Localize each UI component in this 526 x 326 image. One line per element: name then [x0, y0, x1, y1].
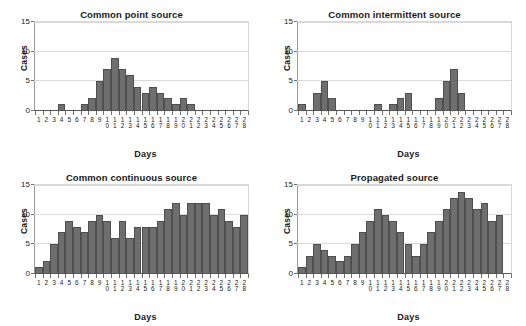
x-tick-label: 9 [360, 116, 365, 122]
y-tick-mark [31, 184, 34, 185]
x-tick-mark [366, 111, 367, 115]
x-tick-label: 15 [406, 279, 411, 290]
bar [81, 104, 89, 110]
x-tick-mark [50, 111, 51, 115]
plot-area: 051015 [34, 22, 249, 111]
bar [397, 98, 405, 110]
y-tick-mark [31, 214, 34, 215]
x-tick-mark [248, 274, 249, 278]
x-tick-mark [58, 274, 59, 278]
x-tick-label: 26 [226, 279, 231, 290]
x-tick-label: 20 [181, 279, 186, 290]
x-tick-label: 13 [391, 279, 396, 290]
bar [164, 98, 172, 110]
x-tick-label: 20 [181, 116, 186, 127]
chart-title: Common point source [0, 9, 263, 20]
bar [233, 227, 241, 273]
bar [119, 221, 127, 273]
x-tick-label: 2 [44, 116, 49, 122]
chart-title: Common intermittent source [263, 9, 526, 20]
y-tick-label: 0 [26, 106, 30, 115]
bar [126, 75, 134, 110]
bar [443, 209, 451, 273]
x-tick-mark [96, 111, 97, 115]
x-tick-labels: 1234567891011121314151617181920212223242… [34, 116, 249, 140]
x-tick-label: 14 [135, 279, 140, 290]
bar [374, 209, 382, 273]
y-tick-label: 0 [289, 269, 293, 278]
x-tick-mark [313, 111, 314, 115]
chart-panel-common_point_source: Common point sourceCases0510151234567891… [0, 0, 263, 163]
x-tick-label: 28 [242, 116, 247, 127]
bar [496, 215, 504, 273]
x-tick-label: 6 [74, 116, 79, 122]
bar [450, 69, 458, 110]
x-tick-label: 5 [330, 116, 335, 122]
x-tick-mark [344, 274, 345, 278]
bar [321, 250, 329, 273]
x-tick-label: 3 [315, 116, 320, 122]
x-tick-label: 23 [204, 116, 209, 127]
x-tick-label: 26 [226, 116, 231, 127]
x-tick-mark [35, 111, 36, 115]
x-tick-label: 18 [429, 116, 434, 127]
bar [443, 81, 451, 110]
x-tick-mark [58, 111, 59, 115]
bar-series [298, 186, 511, 273]
x-tick-label: 1 [299, 116, 304, 122]
x-tick-label: 25 [482, 116, 487, 127]
x-tick-mark [458, 111, 459, 115]
x-tick-mark [450, 111, 451, 115]
x-tick-mark [73, 111, 74, 115]
bar [389, 221, 397, 273]
x-tick-mark [126, 111, 127, 115]
x-tick-label: 24 [474, 116, 479, 127]
bar [473, 209, 481, 273]
bar [81, 232, 89, 273]
x-tick-mark [298, 274, 299, 278]
x-tick-mark [142, 274, 143, 278]
bar [328, 256, 336, 273]
x-tick-label: 4 [59, 116, 64, 122]
x-tick-mark [443, 274, 444, 278]
x-tick-mark [473, 274, 474, 278]
x-tick-mark [511, 111, 512, 115]
bar [218, 209, 226, 273]
y-tick-label: 0 [289, 106, 293, 115]
bar [43, 261, 51, 273]
x-tick-label: 24 [211, 279, 216, 290]
x-tick-mark [88, 274, 89, 278]
y-tick-label: 15 [21, 17, 30, 26]
bar [328, 98, 336, 110]
bar-series [35, 23, 248, 110]
bar [313, 244, 321, 273]
bar [103, 221, 111, 273]
x-tick-mark [119, 274, 120, 278]
x-tick-mark [321, 111, 322, 115]
gridline [34, 184, 249, 185]
x-tick-label: 3 [52, 279, 57, 285]
x-tick-mark [65, 111, 66, 115]
bar [465, 198, 473, 273]
bar [427, 232, 435, 273]
x-tick-mark [96, 274, 97, 278]
x-tick-mark [336, 274, 337, 278]
x-tick-label: 19 [436, 116, 441, 127]
bar [96, 81, 104, 110]
x-tick-mark [81, 111, 82, 115]
x-tick-labels: 1234567891011121314151617181920212223242… [34, 279, 249, 303]
x-tick-label: 7 [82, 279, 87, 285]
bar [134, 227, 142, 273]
x-tick-label: 23 [204, 279, 209, 290]
x-tick-mark [496, 111, 497, 115]
x-tick-label: 14 [398, 116, 403, 127]
x-tick-mark [157, 111, 158, 115]
bar [119, 69, 127, 110]
x-tick-label: 8 [90, 279, 95, 285]
x-tick-mark [233, 274, 234, 278]
x-tick-label: 11 [112, 116, 117, 127]
x-tick-mark [382, 274, 383, 278]
x-tick-label: 22 [459, 116, 464, 127]
plot-area: 051015 [297, 22, 512, 111]
bar [88, 221, 96, 273]
